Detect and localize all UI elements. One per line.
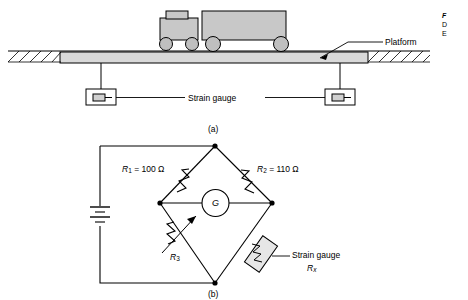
caption-a: (a)	[208, 124, 218, 134]
strain-gauge-element-right	[332, 94, 344, 101]
strain-gauge-element-left	[93, 94, 105, 101]
figure-container: F D E Platform Strain gauge (a) R1 = 100…	[0, 0, 468, 300]
truck-cab-roof	[166, 11, 188, 19]
resistor-r1	[177, 169, 189, 192]
bridge-node-left	[157, 200, 162, 205]
truck-wheel-3	[206, 37, 221, 52]
platform-label: Platform	[385, 37, 417, 47]
bridge-node-top	[212, 143, 217, 148]
bridge-arm-r3	[160, 203, 215, 283]
truck-wheel-4	[274, 37, 289, 52]
strain-gauge-rx	[244, 236, 277, 273]
ground-hatch-right	[368, 51, 430, 62]
rx-label-group: Rx	[307, 263, 316, 273]
battery-symbol	[90, 207, 110, 222]
bridge-left-wire-lower	[100, 226, 215, 283]
bridge-node-right	[269, 200, 274, 205]
truck-trailer	[202, 11, 286, 40]
truck-cab	[160, 18, 198, 40]
margin-note-line2: D	[442, 21, 447, 28]
strain-gauge-label-a: Strain gauge	[188, 93, 236, 103]
caption-b: (b)	[208, 289, 218, 299]
r2-value: = 110 Ω	[267, 164, 299, 174]
galvanometer-label: G	[212, 198, 219, 208]
ground-hatch-left	[8, 51, 61, 62]
part-a-group	[8, 11, 430, 105]
rx-subscript: x	[313, 266, 316, 273]
strain-gauge-label-b: Strain gauge	[292, 250, 340, 260]
r3-subscript: 3	[176, 255, 180, 262]
truck-wheel-2	[186, 38, 199, 51]
r1-label-group: R1 = 100 Ω	[122, 164, 164, 174]
r2-label-group: R2 = 110 Ω	[257, 164, 299, 174]
bridge-node-bottom	[212, 280, 217, 285]
truck-wheel-1	[160, 38, 173, 51]
r3-adjust-arrowhead	[187, 216, 196, 224]
margin-note-line1: F	[442, 12, 446, 19]
margin-note-line3: E	[442, 30, 447, 37]
r3-label-group: R3	[170, 252, 180, 262]
r1-value: = 100 Ω	[132, 164, 165, 174]
